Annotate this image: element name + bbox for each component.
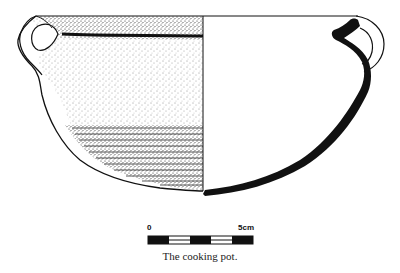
cooking-pot-drawing — [0, 0, 400, 273]
scale-bar — [148, 236, 253, 244]
pot-exterior-view — [18, 16, 203, 191]
scale-end-label: 5cm — [238, 224, 254, 232]
figure-caption: The cooking pot. — [0, 250, 400, 262]
scale-start-label: 0 — [147, 224, 151, 232]
pot-section-profile — [203, 16, 384, 196]
